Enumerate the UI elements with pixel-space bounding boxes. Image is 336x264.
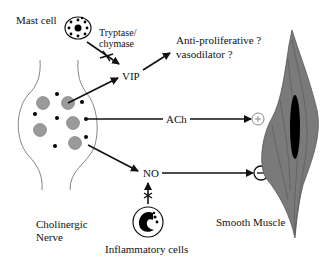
effect-label-line1: Anti-proliferative ? — [176, 34, 261, 46]
inflammatory-label: Inflammatory cells — [105, 243, 188, 255]
muscle-label: Smooth Muscle — [216, 216, 285, 228]
vip-effect-arrow — [143, 53, 170, 70]
effect-label-line2: vasodilator ? — [176, 48, 233, 60]
mast-cell-icon — [65, 17, 91, 39]
vip-label: VIP — [122, 70, 140, 82]
excitatory-plus-icon — [252, 113, 264, 125]
inflammatory-inhibition-arrow — [144, 183, 152, 204]
nerve-label-line2: Nerve — [36, 231, 63, 243]
enzyme-label-line2: chymase — [99, 38, 134, 49]
nerve-terminal — [18, 60, 97, 190]
ach-label: ACh — [166, 113, 187, 125]
smooth-muscle-icon — [262, 30, 319, 238]
nerve-label-line1: Cholinergic — [36, 218, 88, 230]
no-release-arrow — [88, 145, 138, 171]
inflammatory-cell-icon — [133, 207, 163, 237]
enzyme-label-line1: Tryptase/ — [99, 27, 136, 38]
mast-cell-label: Mast cell — [16, 14, 57, 26]
no-label: NO — [143, 167, 159, 179]
vip-release-arrow — [68, 78, 118, 103]
